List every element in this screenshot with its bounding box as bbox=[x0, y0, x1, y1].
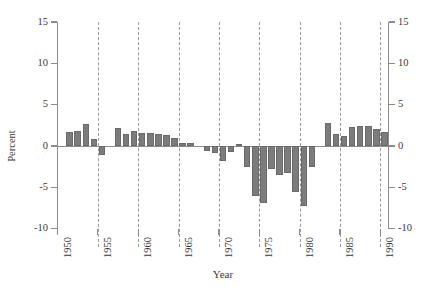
bar bbox=[187, 143, 193, 146]
bar bbox=[260, 146, 266, 203]
bar bbox=[123, 134, 129, 146]
bar bbox=[220, 146, 226, 161]
bar bbox=[276, 146, 282, 175]
chart-container: Percent 151510105500-5-5-10-10 195019551… bbox=[0, 0, 446, 292]
bar bbox=[91, 139, 97, 146]
bar bbox=[381, 132, 387, 146]
bar bbox=[147, 133, 153, 146]
bar bbox=[139, 133, 145, 146]
bar bbox=[163, 135, 169, 146]
bar bbox=[341, 136, 347, 146]
bar bbox=[179, 143, 185, 146]
bar bbox=[325, 123, 331, 146]
bar bbox=[349, 127, 355, 146]
bar bbox=[292, 146, 298, 192]
bar bbox=[212, 146, 218, 153]
bar bbox=[83, 124, 89, 146]
bar bbox=[155, 134, 161, 146]
bar bbox=[333, 134, 339, 146]
bar-series bbox=[0, 0, 446, 292]
bar bbox=[66, 132, 72, 146]
bar bbox=[244, 146, 250, 167]
bar bbox=[284, 146, 290, 173]
bar bbox=[74, 131, 80, 146]
bar bbox=[131, 131, 137, 146]
bar bbox=[365, 126, 371, 146]
bar bbox=[357, 126, 363, 146]
bar bbox=[309, 146, 315, 167]
bar bbox=[228, 146, 234, 152]
bar bbox=[115, 128, 121, 146]
bar bbox=[373, 129, 379, 146]
x-axis-title: Year bbox=[0, 268, 446, 280]
bar bbox=[301, 146, 307, 206]
bar bbox=[236, 144, 242, 146]
bar bbox=[99, 146, 105, 155]
bar bbox=[171, 138, 177, 146]
bar bbox=[204, 146, 210, 151]
bar bbox=[268, 146, 274, 169]
bar bbox=[252, 146, 258, 196]
